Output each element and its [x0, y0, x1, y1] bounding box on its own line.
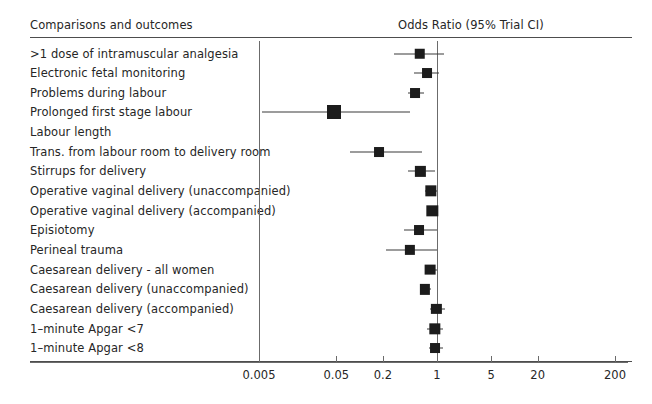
- odds-ratio-marker: [425, 185, 436, 196]
- odds-ratio-marker: [410, 88, 420, 98]
- reference-line-0.005: [259, 41, 260, 359]
- odds-ratio-marker: [427, 205, 438, 216]
- odds-ratio-marker: [420, 284, 430, 294]
- column-header-odds-ratio: Odds Ratio (95% Trial CI): [398, 18, 544, 32]
- x-axis-tick-label: 0.005: [243, 368, 276, 382]
- odds-ratio-marker: [431, 304, 441, 314]
- row-label: Labour length: [30, 125, 111, 139]
- row-label: 1–minute Apgar <8: [30, 341, 144, 355]
- row-label: Caesarean delivery - all women: [30, 263, 214, 277]
- row-label: Episiotomy: [30, 223, 95, 237]
- row-label: Stirrups for delivery: [30, 164, 146, 178]
- x-axis-tick-label: 5: [487, 368, 494, 382]
- x-axis-tick: [615, 356, 616, 363]
- row-label: Trans. from labour room to delivery room: [30, 145, 271, 159]
- row-label: Perineal trauma: [30, 243, 123, 257]
- row-label: Operative vaginal delivery (accompanied): [30, 204, 276, 218]
- column-header-comparisons: Comparisons and outcomes: [30, 18, 193, 32]
- x-axis-tick-label: 1: [433, 368, 440, 382]
- row-label: >1 dose of intramuscular analgesia: [30, 47, 238, 61]
- odds-ratio-marker: [429, 323, 440, 334]
- row-label: Electronic fetal monitoring: [30, 66, 185, 80]
- odds-ratio-marker: [425, 264, 436, 275]
- x-axis-tick: [259, 356, 260, 363]
- row-label: Operative vaginal delivery (unaccompanie…: [30, 184, 291, 198]
- odds-ratio-marker: [415, 166, 425, 176]
- x-axis-tick-label: 200: [604, 368, 626, 382]
- row-label: 1–minute Apgar <7: [30, 322, 144, 336]
- x-axis-tick: [383, 356, 384, 363]
- row-label: Problems during labour: [30, 86, 166, 100]
- odds-ratio-marker: [327, 105, 341, 119]
- header-divider-rule: [30, 37, 632, 38]
- x-axis-tick-label: 0.2: [374, 368, 392, 382]
- confidence-interval-line: [350, 151, 422, 152]
- forest-plot: Comparisons and outcomes Odds Ratio (95%…: [0, 0, 652, 404]
- row-label: Caesarean delivery (accompanied): [30, 302, 234, 316]
- x-axis-tick: [491, 356, 492, 363]
- x-axis-tick: [437, 356, 438, 363]
- odds-ratio-marker: [405, 245, 415, 255]
- x-axis-tick: [538, 356, 539, 363]
- odds-ratio-marker: [422, 68, 432, 78]
- odds-ratio-marker: [430, 343, 440, 353]
- odds-ratio-marker: [415, 48, 426, 59]
- row-label: Caesarean delivery (unaccompanied): [30, 282, 249, 296]
- x-axis-tick-label: 20: [530, 368, 545, 382]
- x-axis-tick-label: 0.05: [324, 368, 350, 382]
- odds-ratio-marker: [374, 147, 384, 157]
- odds-ratio-marker: [414, 225, 424, 235]
- x-axis-tick: [336, 356, 337, 363]
- row-label: Prolonged first stage labour: [30, 105, 192, 119]
